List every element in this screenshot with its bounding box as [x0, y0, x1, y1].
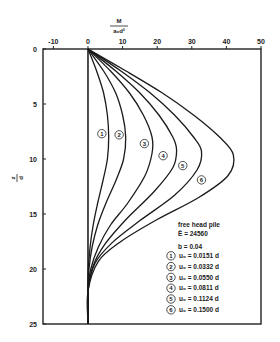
curve-marker-1: 1 — [98, 130, 106, 138]
curve-marker-2: 2 — [115, 131, 123, 139]
y-tick-label: 10 — [29, 156, 37, 163]
legend-entry-3: 3u₀ = 0.0550 d — [167, 273, 219, 281]
x-axis-label: M a₀d³ — [110, 18, 128, 34]
svg-text:u₀ = 0.1500 d: u₀ = 0.1500 d — [179, 306, 219, 313]
curve-marker-6: 6 — [197, 176, 205, 184]
curve-marker-3: 3 — [140, 139, 148, 147]
y-tick-label: 5 — [33, 101, 37, 108]
moment-curve-5 — [87, 49, 201, 324]
legend-entry-1: 1u₀ = 0.0151 d — [167, 252, 219, 260]
svg-text:u₀ = 0.0332 d: u₀ = 0.0332 d — [179, 263, 219, 270]
legend-param-e: Ē = 24560 — [178, 230, 208, 237]
y-axis-label-denominator: d — [18, 176, 24, 180]
legend-param-b: b = 0.04 — [178, 243, 202, 250]
legend: free head pile Ē = 24560 b = 0.04 1u₀ = … — [167, 221, 220, 314]
moment-depth-chart: -1001020304050 0510152025 M a₀d³ z d 123… — [0, 0, 280, 342]
x-tick-label: 50 — [257, 38, 265, 45]
moment-curves — [87, 49, 234, 324]
y-tick-label: 0 — [33, 46, 37, 53]
x-axis-label-denominator: a₀d³ — [113, 28, 125, 34]
x-tick-label: 10 — [119, 38, 127, 45]
x-axis-label-numerator: M — [117, 18, 122, 24]
legend-entry-4: 4u₀ = 0.0811 d — [167, 284, 219, 292]
moment-curve-3 — [88, 49, 153, 324]
y-tick-label: 20 — [29, 266, 37, 273]
moment-curve-6 — [87, 49, 234, 324]
legend-title: free head pile — [178, 221, 220, 229]
legend-entry-5: 5u₀ = 0.1124 d — [167, 295, 219, 303]
curve-marker-5: 5 — [179, 161, 187, 169]
legend-entry-2: 2u₀ = 0.0332 d — [167, 262, 219, 270]
moment-curve-1 — [88, 49, 109, 324]
moment-curve-2 — [88, 49, 126, 324]
plot-frame — [43, 49, 261, 324]
legend-entry-6: 6u₀ = 0.1500 d — [167, 306, 219, 314]
y-axis-label: z d — [10, 174, 24, 182]
curve-marker-4: 4 — [159, 152, 167, 160]
x-tick-label: 20 — [153, 38, 161, 45]
x-tick-label: 0 — [86, 38, 90, 45]
svg-text:u₀ = 0.0550 d: u₀ = 0.0550 d — [179, 274, 219, 281]
svg-text:u₀ = 0.0151 d: u₀ = 0.0151 d — [179, 252, 219, 259]
y-tick-label: 15 — [29, 211, 37, 218]
y-tick-label: 25 — [29, 321, 37, 328]
x-tick-label: -10 — [48, 38, 58, 45]
x-tick-label: 40 — [222, 38, 230, 45]
legend-entries: 1u₀ = 0.0151 d2u₀ = 0.0332 d3u₀ = 0.0550… — [167, 252, 219, 314]
x-tick-label: 30 — [188, 38, 196, 45]
svg-text:u₀ = 0.0811 d: u₀ = 0.0811 d — [179, 284, 219, 291]
y-axis-label-numerator: z — [10, 177, 16, 180]
x-axis-ticks: -1001020304050 — [48, 38, 265, 49]
svg-text:u₀ = 0.1124 d: u₀ = 0.1124 d — [179, 295, 219, 302]
